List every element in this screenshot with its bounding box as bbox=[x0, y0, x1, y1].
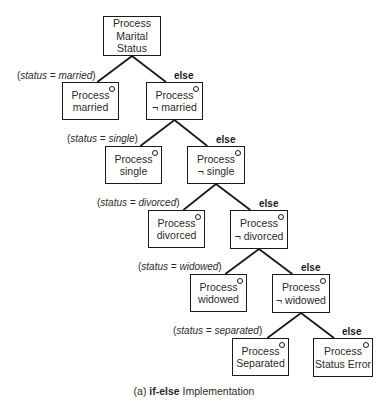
node-label-line: married bbox=[73, 101, 109, 114]
node-not-widowed: Process¬ widowed bbox=[272, 274, 330, 313]
condition-label-married: (status = married) bbox=[17, 70, 96, 81]
figure-caption: (a) if-else Implementation bbox=[0, 385, 388, 397]
edge-not-single-to-not-divorced bbox=[216, 184, 250, 210]
small-circle-icon bbox=[193, 86, 199, 92]
small-circle-icon bbox=[152, 150, 158, 156]
node-label-line: ¬ married bbox=[152, 101, 197, 114]
edge-not-divorced-to-not-widowed bbox=[259, 249, 292, 274]
node-label-line: Process bbox=[115, 153, 153, 166]
node-married: Processmarried bbox=[62, 82, 119, 120]
else-label: else bbox=[216, 134, 235, 145]
node-label-line: Process bbox=[242, 345, 280, 358]
small-circle-icon bbox=[363, 342, 369, 348]
node-label-line: Separated bbox=[236, 357, 284, 370]
node-label-line: Process bbox=[197, 153, 235, 166]
edge-not-married-to-not-single bbox=[175, 120, 208, 146]
node-separated: ProcessSeparated bbox=[232, 338, 289, 376]
node-widowed: Processwidowed bbox=[190, 274, 247, 312]
node-label-line: widowed bbox=[198, 293, 239, 306]
node-label-line: Process bbox=[240, 217, 278, 230]
else-label: else bbox=[259, 198, 278, 209]
condition-label-divorced: (status = divorced) bbox=[97, 197, 180, 208]
node-label-line: divorced bbox=[157, 229, 197, 242]
node-label-line: Marital bbox=[116, 30, 148, 43]
edge-root-to-married bbox=[97, 56, 132, 82]
small-circle-icon bbox=[237, 278, 243, 284]
else-label: else bbox=[342, 326, 361, 337]
edge-root-to-not-married bbox=[132, 56, 166, 82]
caption-keyword: if-else bbox=[149, 385, 179, 397]
small-circle-icon bbox=[235, 150, 241, 156]
edge-not-divorced-to-widowed bbox=[225, 249, 259, 274]
node-single: Processsingle bbox=[105, 146, 162, 184]
node-root: ProcessMaritalStatus bbox=[103, 16, 161, 56]
small-circle-icon bbox=[109, 86, 115, 92]
edge-not-married-to-single bbox=[140, 120, 174, 146]
node-label-line: single bbox=[120, 165, 147, 178]
node-not-divorced: Process¬ divorced bbox=[230, 210, 288, 249]
node-label-line: Process bbox=[282, 281, 320, 294]
node-not-single: Process¬ single bbox=[187, 146, 245, 184]
node-label-line: ¬ widowed bbox=[276, 294, 326, 307]
caption-suffix: Implementation bbox=[180, 385, 255, 397]
node-label-line: Process bbox=[324, 345, 362, 358]
node-label-line: Process bbox=[113, 17, 151, 30]
caption-prefix: (a) bbox=[134, 385, 150, 397]
small-circle-icon bbox=[279, 342, 285, 348]
condition-label-separated: (status = separated) bbox=[173, 325, 262, 336]
else-label: else bbox=[174, 70, 193, 81]
small-circle-icon bbox=[278, 214, 284, 220]
condition-label-widowed: (status = widowed) bbox=[138, 261, 222, 272]
node-label-line: Status bbox=[117, 42, 147, 55]
node-label-line: Process bbox=[72, 89, 110, 102]
node-divorced: Processdivorced bbox=[148, 210, 205, 248]
else-label: else bbox=[301, 262, 320, 273]
node-status-error: ProcessStatus Error bbox=[313, 338, 373, 377]
node-label-line: Process bbox=[200, 281, 238, 294]
small-circle-icon bbox=[195, 214, 201, 220]
small-circle-icon bbox=[320, 278, 326, 284]
node-label-line: ¬ divorced bbox=[235, 230, 284, 243]
edge-not-single-to-divorced bbox=[183, 184, 216, 210]
node-label-line: ¬ single bbox=[198, 165, 234, 178]
node-label-line: Process bbox=[156, 89, 194, 102]
node-label-line: Status Error bbox=[315, 358, 371, 371]
condition-label-single: (status = single) bbox=[67, 133, 138, 144]
edge-not-widowed-to-status-error bbox=[301, 313, 334, 338]
node-not-married: Process¬ married bbox=[146, 82, 203, 120]
edge-not-widowed-to-separated bbox=[267, 313, 301, 338]
if-else-decision-tree: ProcessMaritalStatusProcessmarriedProces… bbox=[0, 0, 388, 410]
node-label-line: Process bbox=[158, 217, 196, 230]
